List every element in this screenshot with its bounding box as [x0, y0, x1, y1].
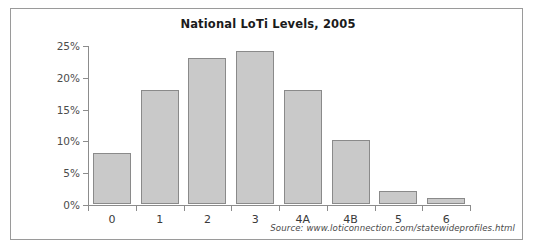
bar — [284, 90, 322, 204]
y-axis-tick — [83, 110, 88, 111]
y-axis-tick-label: 15% — [57, 104, 80, 116]
x-axis-tick — [88, 206, 89, 211]
plot-area: 0%5%10%15%20%25% 01234A4B56 — [88, 46, 470, 205]
x-axis-tick — [184, 206, 185, 211]
bar — [379, 191, 417, 204]
x-axis-tick — [422, 206, 423, 211]
bar — [427, 198, 465, 204]
chart-title: National LoTi Levels, 2005 — [0, 17, 536, 31]
y-axis-tick-label: 20% — [57, 72, 80, 84]
y-axis-tick-label: 25% — [57, 40, 80, 52]
x-axis-tick — [470, 206, 471, 211]
x-axis-tick — [136, 206, 137, 211]
x-axis-tick-label: 1 — [156, 213, 163, 226]
y-axis-tick — [83, 46, 88, 47]
bar — [188, 58, 226, 204]
x-axis-tick-label: 3 — [252, 213, 259, 226]
y-axis-tick-label: 5% — [63, 167, 80, 179]
x-axis-tick — [231, 206, 232, 211]
bar — [93, 153, 131, 204]
bar — [236, 51, 274, 204]
y-axis-tick — [83, 141, 88, 142]
bar — [332, 140, 370, 204]
bar — [141, 90, 179, 204]
source-note: Source: www.loticonnection.com/statewide… — [270, 223, 515, 233]
y-axis-tick — [83, 173, 88, 174]
x-axis-tick — [327, 206, 328, 211]
y-axis-line — [88, 46, 89, 206]
y-axis-tick-label: 0% — [63, 199, 80, 211]
y-axis-tick — [83, 78, 88, 79]
x-axis-tick-label: 0 — [108, 213, 115, 226]
x-axis-tick-label: 2 — [204, 213, 211, 226]
figure: National LoTi Levels, 2005 0%5%10%15%20%… — [0, 0, 536, 249]
y-axis-tick-label: 10% — [57, 135, 80, 147]
x-axis-tick — [375, 206, 376, 211]
x-axis-tick — [279, 206, 280, 211]
